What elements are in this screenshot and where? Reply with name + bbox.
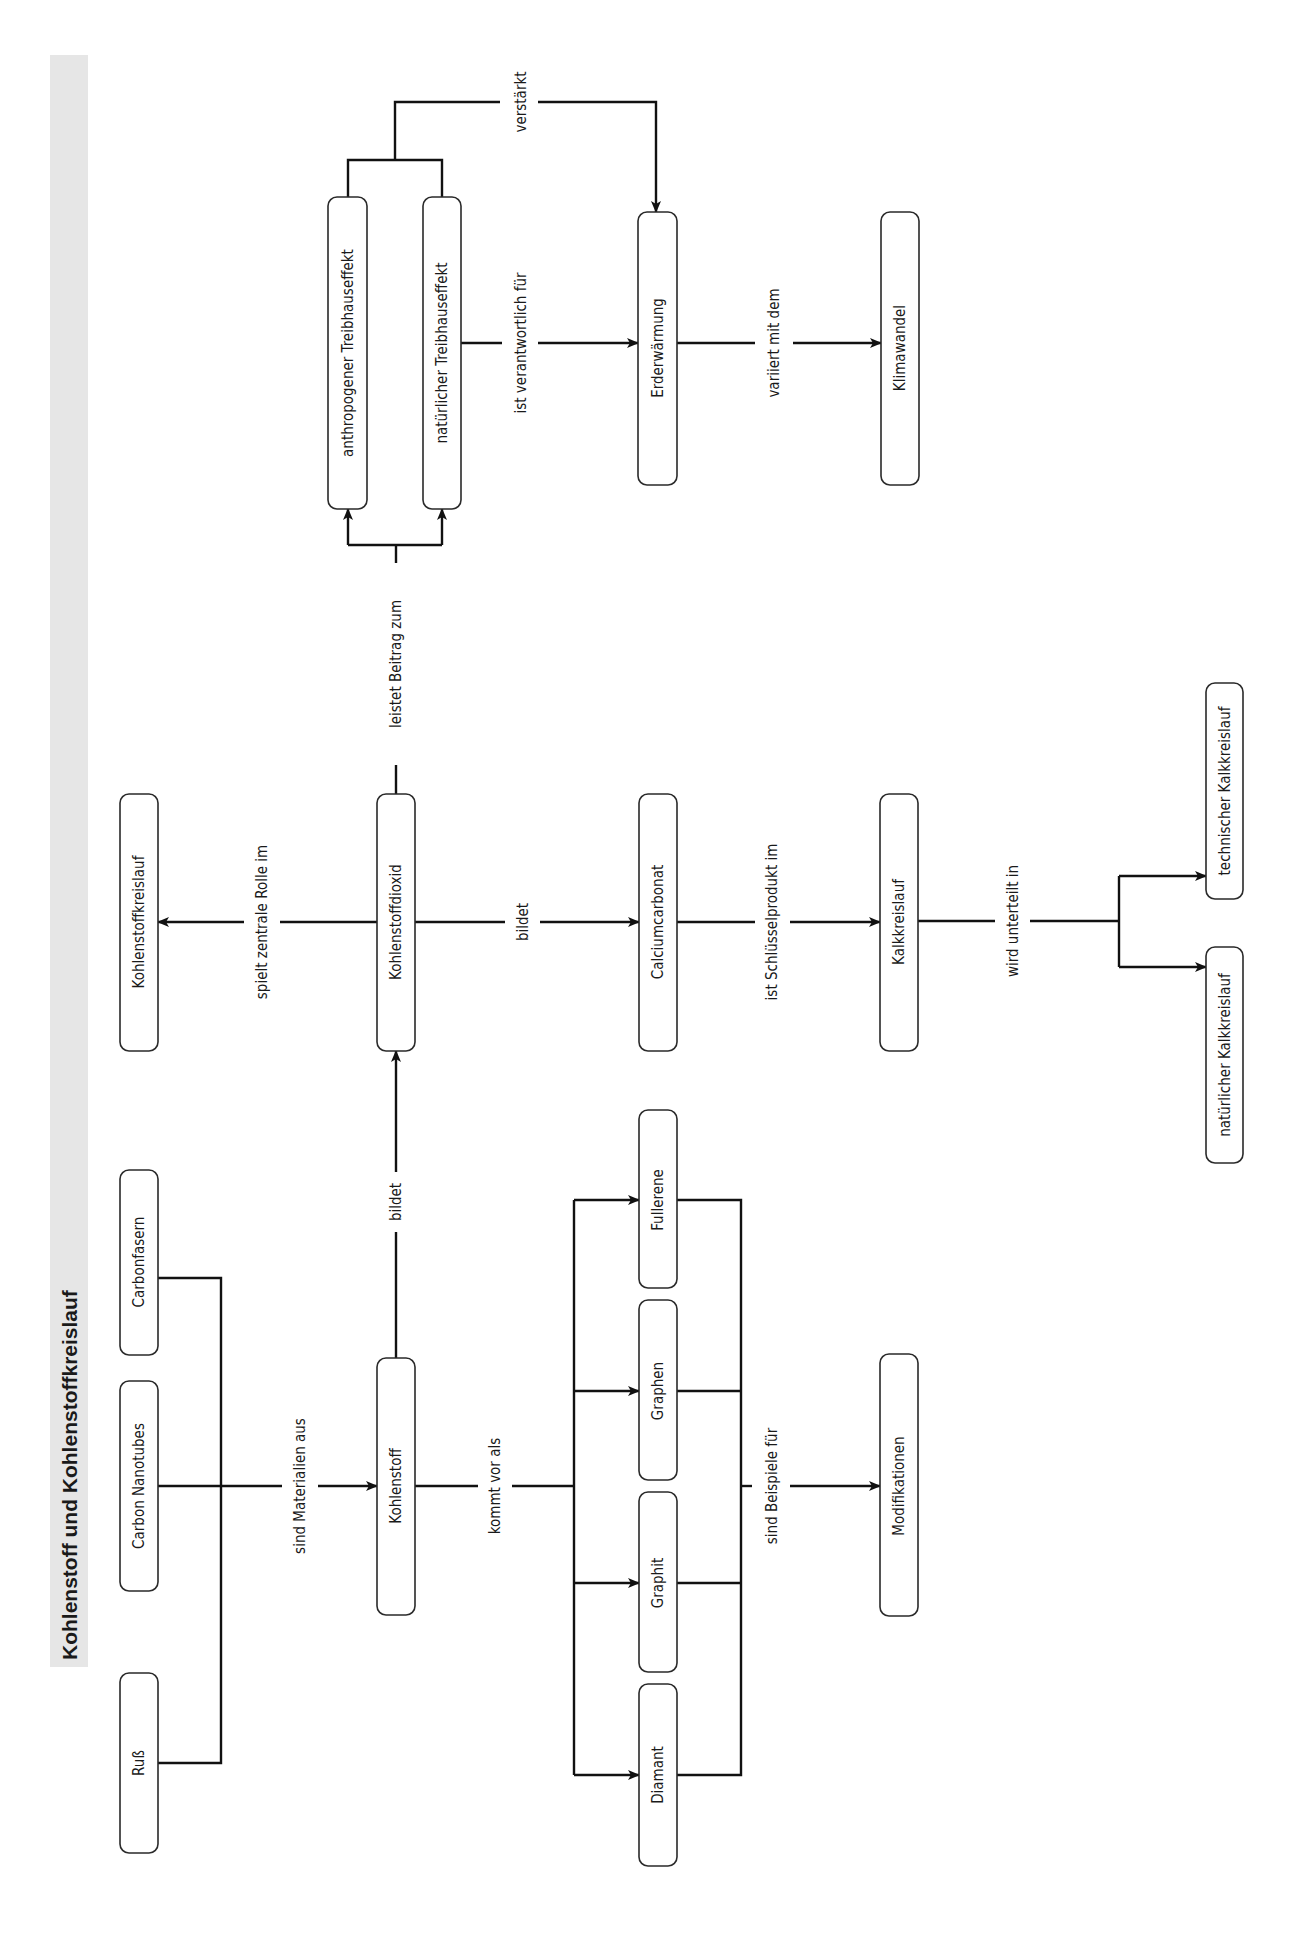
node-natuerlicher-kalkkreislauf: natürlicher Kalkkreislauf (1206, 947, 1243, 1163)
edge-kommt-vor-als (415, 1200, 639, 1775)
svg-text:Ruß: Ruß (130, 1750, 148, 1776)
svg-text:Kohlenstoffdioxid: Kohlenstoffdioxid (387, 864, 405, 980)
svg-text:Carbonfasern: Carbonfasern (130, 1217, 148, 1308)
svg-text:Diamant: Diamant (649, 1746, 667, 1804)
node-erderwaermung: Erderwärmung (638, 212, 677, 485)
svg-text:Fullerene: Fullerene (649, 1169, 667, 1231)
node-carbon-nanotubes: Carbon Nanotubes (120, 1381, 158, 1591)
edge-wird-unterteilt-in (918, 876, 1206, 967)
svg-text:Kalkkreislauf: Kalkkreislauf (890, 878, 908, 965)
svg-text:Kohlenstoffkreislauf: Kohlenstoffkreislauf (130, 854, 148, 988)
svg-text:Erderwärmung: Erderwärmung (649, 298, 667, 398)
edge-label-sind-materialien-aus: sind Materialien aus (291, 1418, 309, 1554)
node-natuerlicher-treibhauseffekt: natürlicher Treibhauseffekt (423, 197, 461, 509)
node-calciumcarbonat: Calciumcarbonat (639, 794, 677, 1051)
svg-text:anthropogener Treibhauseffekt: anthropogener Treibhauseffekt (339, 249, 357, 457)
node-kalkkreislauf: Kalkkreislauf (880, 794, 918, 1051)
svg-text:Carbon Nanotubes: Carbon Nanotubes (130, 1423, 148, 1549)
node-klimawandel: Klimawandel (881, 212, 919, 485)
node-modifikationen: Modifikationen (880, 1354, 918, 1616)
svg-text:Calciumcarbonat: Calciumcarbonat (649, 865, 667, 980)
edge-label-bildet-co2: bildet (387, 1183, 405, 1221)
svg-text:Kohlenstoff: Kohlenstoff (387, 1448, 405, 1524)
edge-label-verstaerkt: verstärkt (512, 71, 530, 132)
node-technischer-kalkkreislauf: technischer Kalkkreislauf (1206, 683, 1243, 899)
node-russ: Ruß (120, 1673, 158, 1853)
edge-label-leistet-beitrag: leistet Beitrag zum (387, 600, 405, 728)
edge-label-ist-verantwortlich-fuer: ist verantwortlich für (512, 272, 530, 413)
node-graphit: Graphit (639, 1492, 677, 1672)
page-title: Kohlenstoff und Kohlenstoffkreislauf (58, 1289, 81, 1660)
svg-text:Graphit: Graphit (649, 1558, 667, 1608)
edge-label-sind-beispiele-fuer: sind Beispiele für (763, 1427, 781, 1544)
svg-text:natürlicher Treibhauseffekt: natürlicher Treibhauseffekt (433, 262, 451, 443)
svg-text:Graphen: Graphen (649, 1362, 667, 1420)
concept-map: Kohlenstoff und Kohlenstoffkreislauf sin… (0, 0, 1311, 1946)
node-carbonfasern: Carbonfasern (120, 1170, 158, 1355)
node-kohlenstoffdioxid: Kohlenstoffdioxid (377, 794, 415, 1051)
edge-sind-materialien-aus (158, 1278, 377, 1763)
edge-verstaerkt (348, 102, 656, 212)
edge-label-variiert-mit-dem: variiert mit dem (765, 288, 783, 397)
svg-text:Klimawandel: Klimawandel (891, 305, 909, 391)
edge-label-spielt-zentrale-rolle: spielt zentrale Rolle im (253, 845, 271, 999)
node-kohlenstoffkreislauf: Kohlenstoffkreislauf (120, 794, 158, 1051)
node-kohlenstoff: Kohlenstoff (377, 1358, 415, 1615)
edge-label-kommt-vor-als: kommt vor als (486, 1438, 504, 1535)
svg-text:natürlicher Kalkkreislauf: natürlicher Kalkkreislauf (1216, 972, 1234, 1137)
edge-label-ist-schluesselprodukt: ist Schlüsselprodukt im (763, 844, 781, 1001)
svg-text:Modifikationen: Modifikationen (890, 1436, 908, 1535)
node-anthropogener-treibhauseffekt: anthropogener Treibhauseffekt (328, 197, 367, 509)
edge-label-wird-unterteilt-in: wird unterteilt in (1004, 865, 1022, 977)
node-graphen: Graphen (639, 1300, 677, 1480)
node-fullerene: Fullerene (639, 1110, 677, 1288)
edge-label-bildet-caco3: bildet (514, 903, 532, 941)
svg-text:technischer Kalkkreislauf: technischer Kalkkreislauf (1216, 705, 1234, 875)
node-diamant: Diamant (639, 1684, 677, 1866)
